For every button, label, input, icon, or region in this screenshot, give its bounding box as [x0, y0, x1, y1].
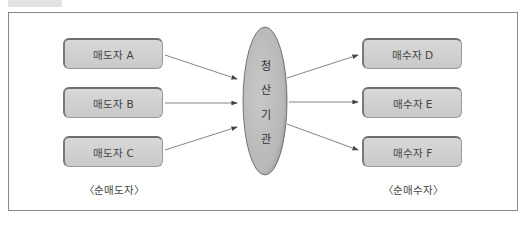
seller-box-b: 매도자 B — [63, 87, 163, 118]
arrow-center-to-d — [287, 55, 358, 78]
center-char-3: 기 — [243, 106, 289, 122]
arrow-center-to-f — [287, 124, 358, 150]
center-char-2: 산 — [243, 81, 289, 97]
caption-net-buyers: 〈순매수자〉 — [353, 182, 473, 197]
arrow-a-to-center — [165, 55, 237, 79]
buyer-box-d: 매수자 D — [362, 38, 462, 69]
seller-box-c: 매도자 C — [63, 136, 163, 167]
arrow-c-to-center — [165, 127, 237, 150]
caption-net-sellers: 〈순매도자〉 — [54, 182, 174, 197]
buyer-box-f: 매수자 F — [362, 136, 462, 167]
buyer-box-e: 매수자 E — [362, 87, 462, 118]
center-char-1: 청 — [243, 57, 289, 73]
seller-box-a: 매도자 A — [63, 38, 163, 69]
clearing-house-ellipse — [243, 27, 287, 175]
center-char-4: 관 — [243, 130, 289, 146]
